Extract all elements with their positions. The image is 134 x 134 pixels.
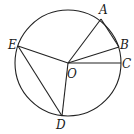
segment-ob <box>68 47 119 63</box>
segment-oe <box>18 46 68 63</box>
label-e: E <box>7 38 17 52</box>
circle-diagram: A B C D E O <box>0 0 134 134</box>
label-c: C <box>122 57 131 71</box>
label-b: B <box>119 38 129 52</box>
segment-oa <box>68 19 101 63</box>
label-a: A <box>98 3 108 17</box>
label-o: O <box>67 67 77 81</box>
chord-ab <box>101 19 119 47</box>
segment-ed <box>18 46 62 116</box>
label-d: D <box>55 118 66 132</box>
